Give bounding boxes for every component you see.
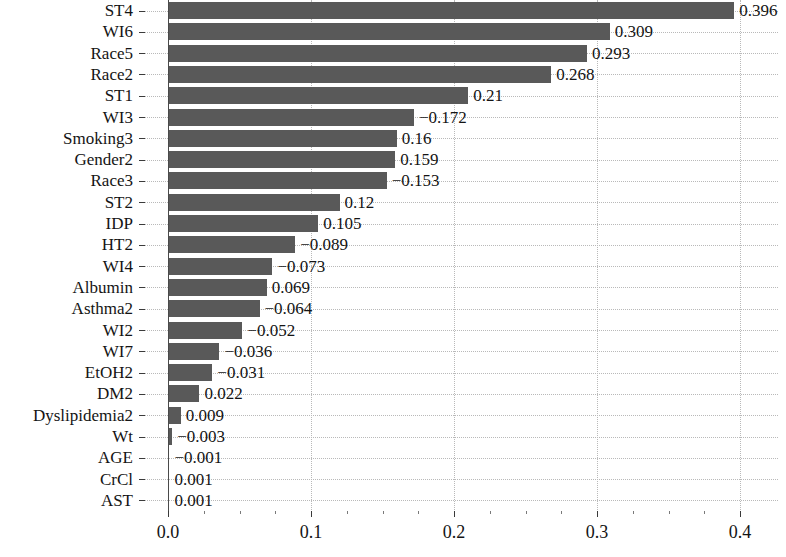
plot-area: ST4WI6Race5Race2ST1WI3Smoking3Gender2Rac… (0, 0, 786, 557)
x-axis-tick-label: 0.1 (300, 523, 323, 541)
category-tick (139, 138, 145, 139)
x-axis-tick-label: 0.3 (586, 523, 609, 541)
bar (168, 322, 242, 339)
category-tick (139, 287, 145, 288)
category-tick (139, 437, 145, 438)
category-label: CrCl (100, 471, 133, 488)
horizontal-gridline (140, 415, 778, 416)
bar (168, 258, 272, 275)
bar (168, 215, 318, 232)
bar-value-label: −0.089 (300, 236, 348, 253)
y-axis-line (168, 0, 169, 513)
bar-value-label: 0.16 (402, 130, 432, 147)
x-axis-tick (597, 511, 598, 517)
bar-value-label: 0.21 (473, 87, 503, 104)
bar (168, 300, 260, 317)
x-axis-tick-label: 0.0 (157, 523, 180, 541)
horizontal-gridline (140, 437, 778, 438)
horizontal-gridline (140, 500, 778, 501)
category-label: HT2 (102, 236, 133, 253)
x-axis-tick-label: 0.2 (443, 523, 466, 541)
bar-value-label: −0.052 (247, 322, 295, 339)
bar (168, 151, 395, 168)
category-label: WI7 (103, 343, 133, 360)
horizontal-gridline (140, 458, 778, 459)
bar (168, 279, 267, 296)
bar (168, 130, 397, 147)
bar-value-label: 0.268 (556, 66, 594, 83)
category-label: DM2 (97, 385, 133, 402)
bar-value-label: 0.159 (400, 151, 438, 168)
bar-value-label: 0.001 (174, 492, 212, 509)
category-label: AGE (98, 449, 133, 466)
category-tick (139, 373, 145, 374)
category-tick (139, 479, 145, 480)
category-tick (139, 309, 145, 310)
category-tick (139, 181, 145, 182)
category-label: Race2 (91, 66, 133, 83)
bar (168, 109, 414, 126)
category-tick (139, 202, 145, 203)
bar-value-label: 0.022 (204, 385, 242, 402)
category-tick (139, 160, 145, 161)
x-axis-minor-tick (383, 511, 384, 514)
x-axis-minor-tick (418, 511, 419, 514)
category-tick (139, 415, 145, 416)
category-label: Albumin (73, 279, 133, 296)
bar-value-label: −0.003 (177, 428, 225, 445)
bar (168, 2, 734, 19)
bar (168, 343, 219, 360)
category-label: Race5 (91, 45, 133, 62)
category-label: AST (101, 492, 133, 509)
bar (168, 172, 387, 189)
x-axis-minor-tick (347, 511, 348, 514)
x-axis-minor-tick (240, 511, 241, 514)
category-label: ST2 (105, 194, 133, 211)
vertical-gridline (740, 0, 741, 510)
bar (168, 66, 551, 83)
category-tick (139, 266, 145, 267)
bar (168, 407, 181, 424)
bar (168, 87, 468, 104)
category-tick (139, 11, 145, 12)
x-axis-tick (168, 511, 169, 517)
category-tick (139, 330, 145, 331)
bar-value-label: 0.12 (345, 194, 375, 211)
category-label: Smoking3 (63, 130, 133, 147)
bar-value-label: −0.064 (265, 300, 313, 317)
category-label: Wt (112, 428, 133, 445)
category-tick (139, 394, 145, 395)
bar (168, 45, 587, 62)
bar-value-label: 0.069 (272, 279, 310, 296)
category-label: ST1 (105, 87, 133, 104)
category-tick (139, 74, 145, 75)
x-axis-minor-tick (633, 511, 634, 514)
x-axis-tick (740, 511, 741, 517)
category-label: Race3 (91, 172, 133, 189)
category-label: ST4 (105, 2, 133, 19)
x-axis-minor-tick (490, 511, 491, 514)
category-tick (139, 245, 145, 246)
x-axis-minor-tick (526, 511, 527, 514)
bar-value-label: −0.036 (224, 343, 272, 360)
x-axis-tick (454, 511, 455, 517)
bar-value-label: 0.396 (739, 2, 777, 19)
x-axis-minor-tick (704, 511, 705, 514)
category-label: WI3 (103, 109, 133, 126)
bar-value-label: 0.009 (186, 407, 224, 424)
bar-value-label: 0.293 (592, 45, 630, 62)
category-tick (139, 117, 145, 118)
x-axis-minor-tick (669, 511, 670, 514)
variable-importance-bar-chart: ST4WI6Race5Race2ST1WI3Smoking3Gender2Rac… (0, 0, 786, 557)
category-tick (139, 351, 145, 352)
bar-value-label: 0.309 (615, 23, 653, 40)
horizontal-gridline (140, 479, 778, 480)
bar (168, 385, 199, 402)
bar-value-label: 0.105 (323, 215, 361, 232)
bar-value-label: −0.172 (419, 109, 467, 126)
bar-value-label: −0.001 (174, 449, 222, 466)
x-axis-tick-label: 0.4 (729, 523, 752, 541)
category-label: Dyslipidemia2 (33, 407, 133, 424)
bar-value-label: −0.073 (277, 258, 325, 275)
bar (168, 194, 340, 211)
